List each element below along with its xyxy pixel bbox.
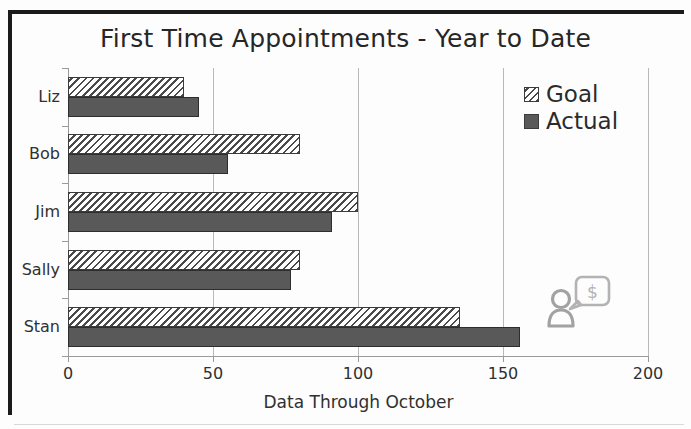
y-tick-Jim	[62, 183, 68, 184]
category-label-bob: Bob	[29, 144, 60, 163]
bar-goal-liz	[68, 77, 184, 97]
x-tick-label-50: 50	[203, 364, 223, 383]
x-axis-line	[68, 356, 649, 357]
x-axis-title: Data Through October	[68, 392, 649, 412]
bar-actual-sally	[68, 270, 291, 290]
x-tick-label-0: 0	[63, 364, 73, 383]
category-axis-labels: LizBobJimSallyStan	[0, 68, 60, 356]
bar-goal-jim	[68, 192, 358, 212]
y-tick-end	[62, 356, 68, 357]
person-with-money-speech-bubble-icon: $	[545, 274, 615, 332]
gridline-200	[648, 68, 649, 356]
page-frame-top-border	[8, 10, 684, 14]
y-tick-Sally	[62, 241, 68, 242]
category-label-stan: Stan	[24, 317, 60, 336]
bar-goal-sally	[68, 250, 300, 270]
legend-label-goal: Goal	[546, 83, 598, 106]
category-label-sally: Sally	[22, 260, 60, 279]
x-tick-label-200: 200	[633, 364, 664, 383]
legend-item-actual: Actual	[524, 110, 644, 133]
solid-swatch-icon	[524, 114, 539, 129]
page-frame-bottom-rule	[14, 424, 684, 425]
x-tick-label-150: 150	[488, 364, 519, 383]
svg-text:$: $	[587, 282, 598, 302]
bar-actual-jim	[68, 212, 332, 232]
legend-item-goal: Goal	[524, 83, 644, 106]
bar-goal-bob	[68, 134, 300, 154]
chart-title: First Time Appointments - Year to Date	[0, 24, 691, 53]
y-tick-Liz	[62, 68, 68, 69]
category-label-liz: Liz	[38, 87, 60, 106]
hatched-swatch-icon	[524, 87, 539, 102]
y-tick-Bob	[62, 126, 68, 127]
bar-actual-bob	[68, 154, 228, 174]
bar-actual-stan	[68, 327, 520, 347]
category-label-jim: Jim	[35, 202, 60, 221]
y-tick-Stan	[62, 298, 68, 299]
chart-page: First Time Appointments - Year to Date 0…	[0, 0, 691, 429]
bar-actual-liz	[68, 97, 199, 117]
x-tick-label-100: 100	[343, 364, 374, 383]
legend-label-actual: Actual	[546, 110, 618, 133]
chart-legend: Goal Actual	[524, 83, 644, 137]
bar-goal-stan	[68, 307, 460, 327]
